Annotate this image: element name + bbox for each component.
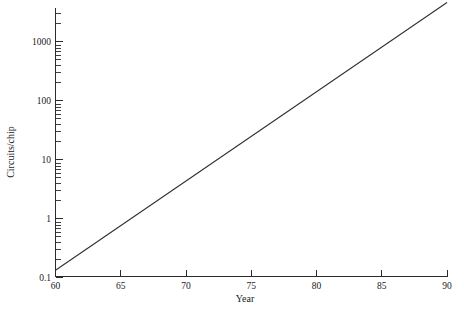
y-tick-label: 1000 xyxy=(32,37,51,47)
chart-figure: 0.1 1 10 100 1000 60 65 70 75 80 85 90 xyxy=(0,0,464,309)
chart-canvas: 0.1 1 10 100 1000 60 65 70 75 80 85 90 xyxy=(0,0,464,309)
x-tick-label: 75 xyxy=(247,281,257,291)
x-tick-label: 90 xyxy=(442,281,452,291)
x-tick-label: 85 xyxy=(377,281,387,291)
x-tick-label: 80 xyxy=(312,281,322,291)
chart-background xyxy=(0,0,464,309)
x-tick-label: 65 xyxy=(116,281,126,291)
y-tick-label: 10 xyxy=(42,155,52,165)
x-tick-label: 60 xyxy=(51,281,61,291)
y-tick-label: 1 xyxy=(46,214,51,224)
y-tick-label: 100 xyxy=(37,96,52,106)
x-axis-title: Year xyxy=(236,293,255,304)
y-tick-label: 0.1 xyxy=(39,273,51,283)
x-tick-label: 70 xyxy=(181,281,191,291)
y-axis-title: Circuits/chip xyxy=(5,126,16,178)
